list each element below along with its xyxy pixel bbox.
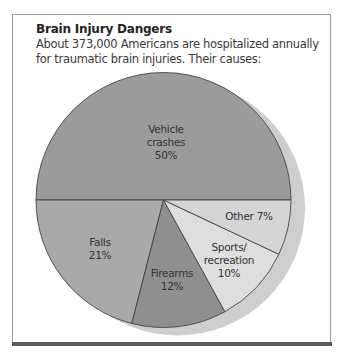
pie-label-other: Other 7% bbox=[225, 210, 273, 222]
pie-chart: Vehiclecrashes50%Falls21%Firearms12%Spor… bbox=[0, 0, 342, 355]
pie-label-falls: Falls21% bbox=[89, 236, 112, 261]
